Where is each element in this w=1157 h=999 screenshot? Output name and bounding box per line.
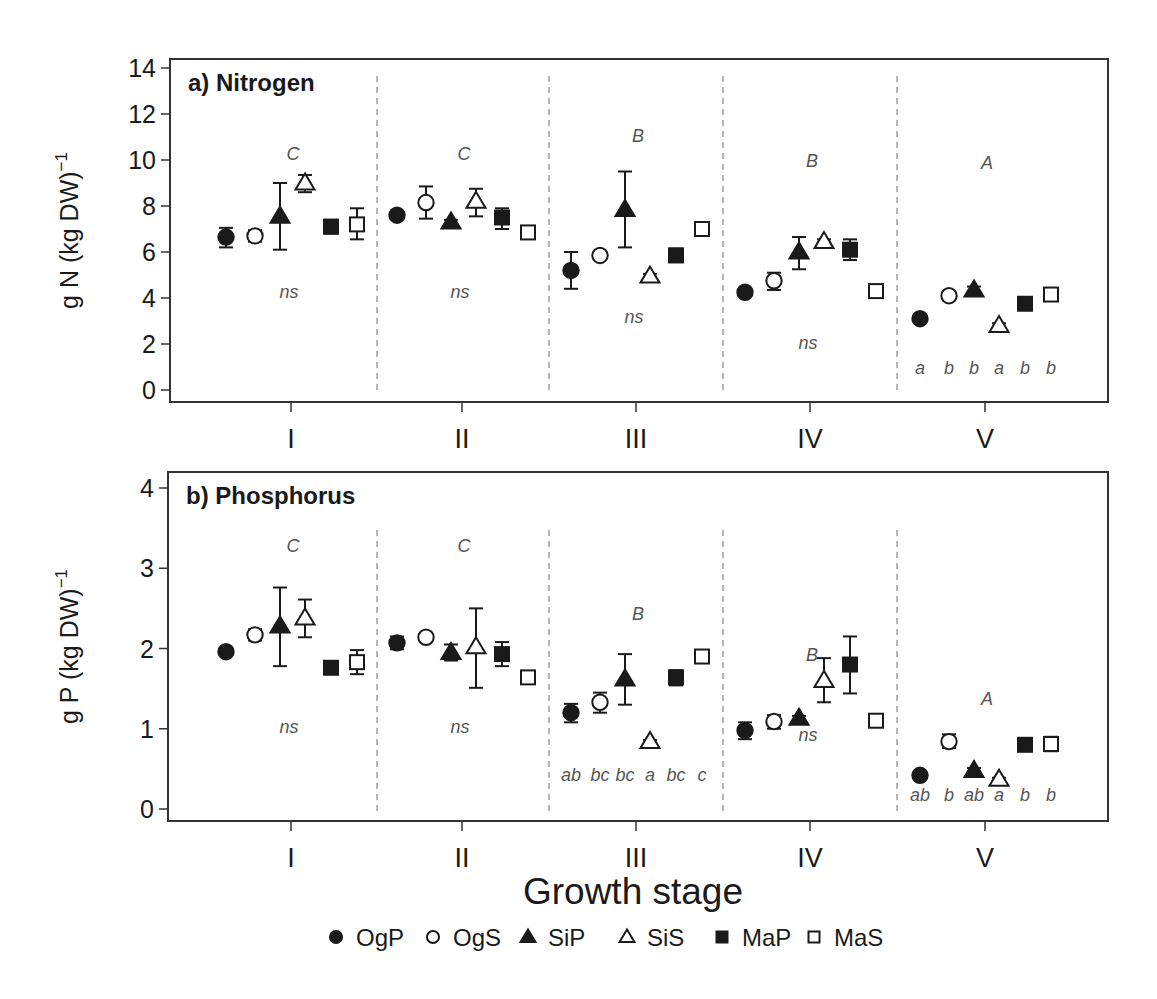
data-point <box>789 242 808 258</box>
data-point <box>270 207 289 223</box>
letter-label: c <box>698 765 707 785</box>
data-point <box>766 714 781 729</box>
data-point <box>912 768 927 783</box>
y-tick-label: 2 <box>140 635 154 663</box>
data-point <box>563 705 578 720</box>
stage-letter: C <box>287 536 301 556</box>
data-point <box>495 211 509 225</box>
data-point <box>669 670 683 684</box>
data-point <box>521 670 535 684</box>
data-point <box>964 280 983 296</box>
legend-label: MaP <box>742 924 791 951</box>
data-point <box>669 248 683 262</box>
x-tick-label: IV <box>797 424 823 454</box>
y-axis-ticks: 02468101214 <box>128 54 170 404</box>
y-tick-label: 4 <box>142 284 156 312</box>
legend-label: MaS <box>834 924 883 951</box>
data-point <box>1044 737 1058 751</box>
data-point <box>766 273 781 288</box>
letter-label: ab <box>964 785 984 805</box>
chart-canvas: 02468101214g N (kg DW)−1IIIIIIIVVa) Nitr… <box>0 0 1157 999</box>
treatment-significance-labels: nsnsnsnsabbabb <box>279 282 1056 378</box>
legend-item-mas: MaS <box>809 924 884 951</box>
ns-label: ns <box>624 307 643 327</box>
panel-title: a) Nitrogen <box>188 69 315 96</box>
data-point <box>592 248 607 263</box>
filled-triangle-icon <box>521 929 536 942</box>
data-point <box>695 222 709 236</box>
y-tick-label: 1 <box>140 715 154 743</box>
y-tick-label: 14 <box>128 54 156 82</box>
open-triangle-marker <box>620 929 635 942</box>
letter-label: b <box>1046 358 1056 378</box>
legend-label: OgS <box>453 924 501 951</box>
filled-square-marker <box>717 932 728 943</box>
ns-label: ns <box>450 717 469 737</box>
series-map <box>324 636 1032 751</box>
letter-label: a <box>994 785 1004 805</box>
x-tick-label: I <box>287 843 295 873</box>
legend-item-sip: SiP <box>521 924 586 951</box>
letter-label: b <box>1046 785 1056 805</box>
data-point <box>737 723 752 738</box>
stage-dividers <box>377 530 897 811</box>
letter-label: ab <box>561 765 581 785</box>
y-tick-label: 0 <box>142 376 156 404</box>
y-tick-label: 2 <box>142 330 156 358</box>
data-point <box>350 217 364 231</box>
letter-label: b <box>944 358 954 378</box>
open-triangle-icon <box>620 929 635 942</box>
plot-frame <box>170 59 1108 402</box>
data-point <box>1018 297 1032 311</box>
data-point <box>592 695 607 710</box>
filled-circle-icon <box>330 931 342 943</box>
data-point <box>389 635 404 650</box>
panel-nitrogen: 02468101214g N (kg DW)−1IIIIIIIVVa) Nitr… <box>52 54 1108 454</box>
panel-title: b) Phosphorus <box>186 482 355 509</box>
data-point <box>843 658 857 672</box>
open-circle-icon <box>427 931 439 943</box>
data-point <box>843 243 857 257</box>
letter-label: b <box>944 785 954 805</box>
stage-letter: C <box>458 536 472 556</box>
y-tick-label: 8 <box>142 192 156 220</box>
x-axis-ticks: IIIIIIIVV <box>287 402 994 454</box>
stage-letter: B <box>632 604 644 624</box>
data-point <box>495 647 509 661</box>
series-sis <box>295 173 1008 332</box>
letter-label: b <box>1020 785 1030 805</box>
x-tick-label: V <box>976 424 994 454</box>
y-tick-label: 12 <box>128 100 156 128</box>
ns-label: ns <box>798 333 817 353</box>
x-axis-label: Growth stage <box>523 871 743 912</box>
y-tick-label: 3 <box>140 554 154 582</box>
letter-label: bc <box>615 765 634 785</box>
y-tick-label: 6 <box>142 238 156 266</box>
y-tick-label: 0 <box>140 795 154 823</box>
ns-label: ns <box>798 725 817 745</box>
y-axis-ticks: 01234 <box>140 474 168 823</box>
data-point <box>941 288 956 303</box>
stage-letter: C <box>458 144 472 164</box>
data-point <box>737 285 752 300</box>
letter-label: a <box>915 358 925 378</box>
data-point <box>521 225 535 239</box>
ns-label: ns <box>450 282 469 302</box>
filled-square-icon <box>717 932 728 943</box>
data-point <box>247 627 262 642</box>
stage-letter: A <box>980 153 993 173</box>
data-point <box>563 263 578 278</box>
x-axis-ticks: IIIIIIIVV <box>287 821 994 873</box>
data-point <box>814 671 833 687</box>
figure: 02468101214g N (kg DW)−1IIIIIIIVVa) Nitr… <box>0 0 1157 999</box>
letter-label: b <box>1020 358 1030 378</box>
letter-label: bc <box>666 765 685 785</box>
legend-item-ogp: OgP <box>330 924 404 951</box>
letter-label: ab <box>910 785 930 805</box>
data-point <box>270 616 289 632</box>
data-point <box>869 714 883 728</box>
x-tick-label: II <box>454 843 469 873</box>
series-sis <box>295 600 1008 786</box>
data-point <box>869 284 883 298</box>
stage-letter: B <box>806 645 818 665</box>
